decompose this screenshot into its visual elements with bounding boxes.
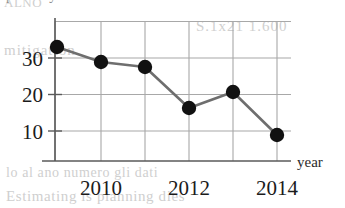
data-line-series	[57, 47, 277, 135]
data-point-2012	[182, 101, 196, 115]
y-tick-label-30: 30	[22, 47, 43, 71]
line-chart-figure: p cents/year ALNO S.1x21 1.600 mitigatio…	[0, 0, 345, 208]
data-point-2011	[138, 60, 152, 74]
data-point-2014	[270, 128, 284, 142]
data-point-2009	[50, 40, 64, 54]
x-axis-title: year	[297, 154, 323, 170]
y-tick-label-20: 20	[22, 83, 43, 107]
x-tick-label-2010: 2010	[80, 176, 122, 200]
y-tick-label-10: 10	[22, 120, 43, 144]
chart-plot-area: 30 20 10 2010 2012 2014 year	[0, 0, 345, 208]
data-point-2010	[94, 55, 108, 69]
x-tick-label-2012: 2012	[168, 176, 210, 200]
x-tick-label-2014: 2014	[256, 176, 299, 200]
vertical-gridlines	[55, 22, 277, 162]
data-point-2013	[226, 85, 240, 99]
